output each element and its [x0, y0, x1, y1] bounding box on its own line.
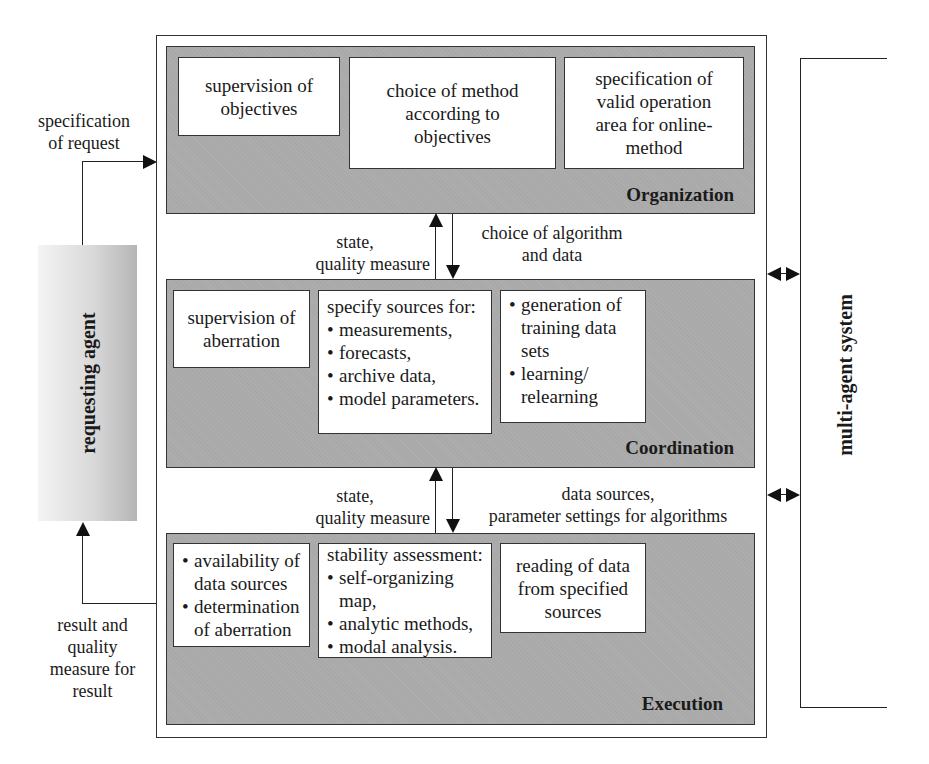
arrow-up-icon: [76, 522, 90, 536]
text-line: area for online-: [595, 113, 712, 136]
text-line: reading of data: [516, 554, 630, 577]
bullet-item: availability of data sources: [182, 549, 309, 595]
flow-line-down-coord: [452, 214, 453, 266]
text-line: quality measure: [270, 253, 430, 275]
text-line: sources: [545, 600, 602, 623]
text-line: method: [626, 136, 683, 159]
org-box-choice-of-method: choice of method according to objectives: [349, 57, 556, 169]
bullet-item: archive data,: [327, 364, 491, 387]
flow-line-down-exec: [452, 468, 453, 520]
request-line-horizontal: [82, 161, 144, 162]
bullet-item: generation of training data sets: [509, 293, 636, 362]
text-line: choice of method: [387, 79, 519, 102]
organization-layer-label: Organization: [626, 184, 734, 206]
exec-box-stability-assessment: stability assessment: self-organizing ma…: [318, 543, 492, 658]
bullet-item: modal analysis.: [327, 635, 491, 658]
coord-box-training-learning: generation of training data sets learnin…: [500, 290, 646, 423]
text-line: result: [30, 680, 155, 702]
text-line: parameter settings for algorithms: [458, 505, 758, 527]
flow-line-up-coord: [435, 480, 436, 533]
mas-bracket-vertical: [800, 58, 801, 708]
request-line-vertical: [82, 161, 83, 245]
mas-bracket-top: [800, 58, 887, 59]
bullet-item: measurements,: [327, 318, 491, 341]
request-label: specification of request: [18, 110, 150, 154]
bullet-item: determination of aberration: [182, 595, 309, 641]
bullet-list: availability of data sources determinati…: [182, 549, 309, 641]
text-line: specification: [18, 110, 150, 132]
arrow-up-icon: [429, 467, 443, 481]
bullet-list: generation of training data sets learnin…: [509, 293, 645, 408]
flow-label-state-quality-coord: state, quality measure: [270, 485, 430, 529]
requesting-agent-label: requesting agent: [76, 312, 99, 453]
arrow-right-icon: [786, 488, 800, 502]
arrow-up-icon: [429, 213, 443, 227]
arrow-right-icon: [786, 267, 800, 281]
flow-label-data-sources-parameters: data sources, parameter settings for alg…: [458, 483, 758, 527]
multi-agent-system-label-wrap: multi-agent system: [820, 275, 870, 475]
flow-line-up-org: [435, 226, 436, 279]
text-line: quality: [30, 636, 155, 658]
text-line: result and: [30, 614, 155, 636]
bullet-item: analytic methods,: [327, 612, 491, 635]
org-box-valid-operation-area: specification of valid operation area fo…: [564, 57, 744, 169]
requesting-agent-block: requesting agent: [38, 245, 137, 521]
text-line: supervision of: [205, 74, 313, 97]
exec-box-availability-aberration: availability of data sources determinati…: [173, 543, 310, 647]
text-line: from specified: [518, 577, 628, 600]
text-line: choice of algorithm: [462, 222, 642, 244]
text-line: aberration: [203, 329, 280, 352]
text-line: valid operation: [597, 90, 712, 113]
flow-label-choice-of-algorithm: choice of algorithm and data: [462, 222, 642, 266]
flow-label-state-quality-org: state, quality measure: [270, 231, 430, 275]
mas-bracket-bottom: [800, 707, 887, 708]
result-label: result and quality measure for result: [30, 614, 155, 702]
arrow-left-icon: [767, 267, 781, 281]
bullet-item: self-organizing map,: [327, 566, 491, 612]
text-line: measure for: [30, 658, 155, 680]
bullet-item: forecasts,: [327, 341, 491, 364]
coord-box-supervision-aberration: supervision of aberration: [173, 290, 310, 368]
box-heading: specify sources for:: [327, 295, 491, 318]
text-line: supervision of: [187, 306, 295, 329]
result-line-vertical: [82, 535, 83, 603]
exec-box-reading-data: reading of data from specified sources: [500, 543, 646, 633]
arrow-left-icon: [767, 488, 781, 502]
text-line: of request: [18, 132, 150, 154]
arrow-right-icon: [143, 155, 157, 169]
text-line: state,: [270, 485, 430, 507]
bullet-item: model parameters.: [327, 387, 491, 410]
text-line: data sources,: [458, 483, 758, 505]
org-box-supervision-objectives: supervision of objectives: [178, 57, 340, 136]
text-line: according to: [405, 102, 499, 125]
text-line: objectives: [414, 125, 491, 148]
coordination-layer-label: Coordination: [625, 437, 734, 459]
text-line: quality measure: [270, 507, 430, 529]
bullet-item: learning/ relearning: [509, 362, 621, 408]
multi-agent-system-label: multi-agent system: [834, 294, 857, 456]
bullet-list: measurements, forecasts, archive data, m…: [327, 318, 491, 410]
text-line: objectives: [220, 97, 297, 120]
text-line: state,: [270, 231, 430, 253]
execution-layer-label: Execution: [642, 693, 723, 715]
result-line-horizontal: [82, 603, 156, 604]
box-heading: stability assessment:: [327, 543, 491, 566]
arrow-down-icon: [446, 265, 460, 279]
coord-box-specify-sources: specify sources for: measurements, forec…: [318, 290, 492, 434]
text-line: and data: [462, 244, 642, 266]
text-line: specification of: [595, 67, 713, 90]
bullet-list: self-organizing map, analytic methods, m…: [327, 566, 491, 658]
